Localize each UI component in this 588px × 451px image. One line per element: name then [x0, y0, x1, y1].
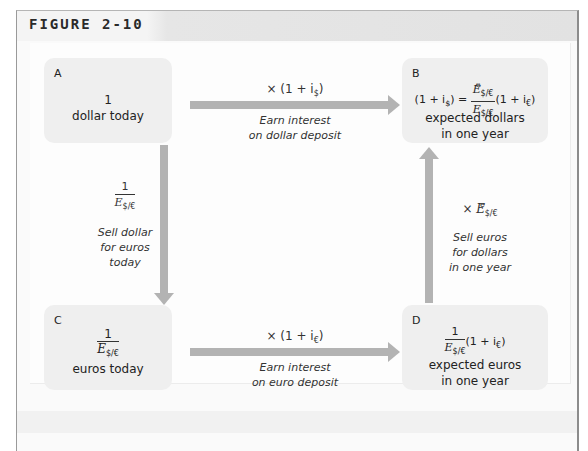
box-c-content: 1 E$/€ euros today	[44, 327, 172, 377]
box-a: A 1 dollar today	[44, 58, 172, 143]
bottom-arrow-caption: Earn interest on euro deposit	[190, 360, 400, 390]
caption-line2: for dollars	[445, 245, 515, 260]
box-c-label: euros today	[44, 361, 172, 377]
caption-line3: in one year	[445, 260, 515, 275]
fraction-inverse-rate: 1 E$/€	[445, 325, 466, 359]
frac-den: E	[445, 341, 453, 354]
bottom-arrow-operator: × (1 + i€)	[190, 329, 400, 345]
op-text: × (1 + i	[267, 329, 314, 343]
op-sup: e	[480, 200, 485, 209]
op-sub: $/€	[485, 209, 498, 218]
eq-right-close: )	[531, 93, 535, 106]
caption-line2: on dollar deposit	[190, 128, 400, 143]
frac-num: 1	[97, 327, 119, 342]
eq-right-close: )	[501, 335, 505, 348]
frac-den-sub: $/€	[453, 347, 466, 356]
frac-den-sub: $/€	[106, 349, 119, 358]
fraction-inverse-rate: 1 E$/€	[115, 180, 136, 214]
box-b: B (1 + i$) = Ee$/€ E$/€ (1 + i€) expecte…	[402, 58, 548, 143]
arrow-right-icon	[190, 101, 388, 109]
top-arrow-caption: Earn interest on dollar deposit	[190, 113, 400, 143]
op-close: )	[319, 82, 324, 96]
caption-line1: Sell dollar	[95, 225, 155, 240]
box-d-line1: expected euros	[402, 357, 548, 373]
frac-num-sub: $/€	[481, 89, 494, 98]
left-arrow-caption: Sell dollar for euros today	[95, 225, 155, 270]
box-a-letter: A	[54, 67, 62, 80]
frac-den: E	[97, 342, 106, 356]
box-c: C 1 E$/€ euros today	[44, 305, 172, 390]
arrow-down-icon	[160, 145, 168, 293]
box-d-line2: in one year	[402, 373, 548, 389]
box-d: D 1 E$/€ (1 + i€) expected euros in one …	[402, 305, 548, 390]
top-arrow-operator: × (1 + i$)	[190, 82, 400, 98]
eq-equals: =	[458, 93, 467, 106]
box-d-label: expected euros in one year	[402, 357, 548, 389]
fraction-inverse-rate: 1 E$/€	[97, 327, 119, 361]
eq-right: (1 + i	[495, 93, 526, 106]
frac-num: 1	[115, 180, 136, 195]
caption-line2: for euros	[95, 240, 155, 255]
op-close: )	[319, 329, 324, 343]
box-a-content: 1 dollar today	[44, 92, 172, 124]
caption-line1: Earn interest	[190, 113, 400, 128]
figure-caption-band	[17, 411, 577, 433]
frac-num-sup: e	[476, 80, 481, 89]
caption-line1: Earn interest	[190, 360, 400, 375]
box-b-line1: expected dollars	[402, 110, 548, 126]
eq-right: (1 + i	[465, 335, 496, 348]
left-arrow-operator: 1 E$/€	[95, 180, 155, 214]
right-arrow-caption: Sell euros for dollars in one year	[445, 230, 515, 275]
box-a-amount: 1	[44, 92, 172, 108]
caption-line1: Sell euros	[445, 230, 515, 245]
box-b-label: expected dollars in one year	[402, 110, 548, 142]
arrow-up-icon	[425, 159, 433, 303]
caption-line3: today	[95, 255, 155, 270]
frac-den-sub: $/€	[123, 202, 136, 211]
eq-left-close: )	[450, 93, 454, 106]
figure-label: FIGURE 2-10	[29, 16, 144, 32]
box-d-equation: 1 E$/€ (1 + i€)	[402, 325, 548, 359]
box-c-letter: C	[54, 314, 62, 327]
eq-left: (1 + i	[415, 93, 446, 106]
frac-num: 1	[445, 325, 466, 340]
frac-den: E	[115, 196, 123, 209]
arrow-right-icon	[190, 348, 388, 356]
box-a-label: dollar today	[44, 108, 172, 124]
right-arrow-operator: × Ee$/€	[445, 200, 515, 218]
op-text: × (1 + i	[267, 82, 314, 96]
box-b-line2: in one year	[402, 126, 548, 142]
caption-line2: on euro deposit	[190, 375, 400, 390]
